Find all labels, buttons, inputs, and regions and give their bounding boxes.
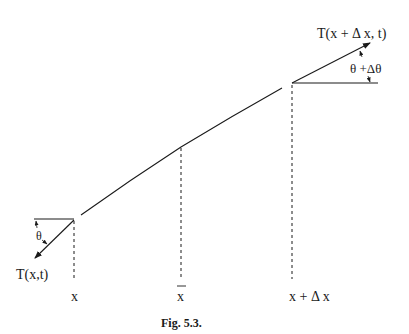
right-angle-tick-upper (360, 51, 362, 57)
left-angle-tick-upper (36, 221, 37, 228)
axis-label-xbar-text: x (177, 289, 184, 304)
axis-label-x-plus-dx: x + Δ x (289, 289, 330, 304)
right-tension-label: T(x + Δ x, t) (317, 26, 387, 42)
figure-caption: Fig. 5.3. (161, 316, 202, 330)
axis-label-x: x (71, 289, 78, 304)
figure-canvas: T(x,t) θ T(x + Δ x, t) θ +Δθ x x x + Δ x… (0, 0, 409, 334)
axis-label-xbar: x (177, 286, 186, 304)
left-tension-label: T(x,t) (16, 267, 49, 283)
string-element-diagram: T(x,t) θ T(x + Δ x, t) θ +Δθ x x x + Δ x… (0, 0, 409, 334)
right-angle-tick-lower (368, 76, 370, 82)
right-angle-label: θ +Δθ (350, 61, 381, 76)
string-curve (81, 88, 282, 215)
left-angle-tick-lower (42, 240, 47, 244)
left-angle-label: θ (36, 229, 42, 243)
